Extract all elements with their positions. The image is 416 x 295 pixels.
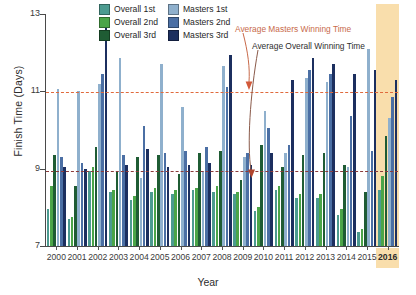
x-minor-tick — [160, 246, 161, 250]
bar-2012-overall-3rd — [302, 155, 305, 246]
bar-2006-masters-3rd — [188, 165, 191, 246]
bar-2004-overall-2nd — [133, 196, 136, 246]
legend-swatch-masters-3rd — [168, 30, 179, 41]
legend-item-masters-2nd[interactable]: Masters 2nd — [168, 16, 230, 28]
bar-2007-masters-3rd — [208, 163, 211, 246]
bar-2012-overall-2nd — [299, 194, 302, 246]
legend-swatch-masters-2nd — [168, 17, 179, 28]
year-group-2001 — [67, 14, 88, 246]
bar-2004-masters-3rd — [146, 149, 149, 246]
y-tick-label: 7 — [20, 240, 40, 250]
bar-2011-overall-1st — [275, 190, 278, 246]
x-minor-tick — [98, 246, 99, 250]
bar-2004-overall-1st — [130, 200, 133, 246]
year-group-2008 — [212, 14, 233, 246]
bar-2009-overall-1st — [233, 194, 236, 246]
bar-2013-overall-1st — [316, 198, 319, 246]
bar-2006-overall-2nd — [174, 190, 177, 246]
legend-label-overall-1st: Overall 1st — [114, 4, 155, 14]
bar-2004-masters-2nd — [143, 126, 146, 246]
bar-2008-masters-1st — [222, 66, 225, 246]
bar-2007-masters-1st — [202, 171, 205, 246]
bar-2006-masters-2nd — [184, 151, 187, 246]
year-group-2006 — [170, 14, 191, 246]
annotation-average-overall: Average Overall Winning Time — [252, 41, 365, 51]
y-tick-mark — [40, 91, 45, 92]
bar-2002-overall-3rd — [95, 147, 98, 246]
y-tick-label: 13 — [20, 8, 40, 18]
bar-2016-masters-3rd — [395, 80, 398, 246]
bar-2000-masters-3rd — [63, 167, 66, 246]
bar-2013-overall-3rd — [323, 153, 326, 246]
bar-2008-overall-2nd — [216, 186, 219, 246]
legend-item-overall-3rd[interactable]: Overall 3rd — [99, 29, 158, 41]
legend-label-masters-1st: Masters 1st — [183, 4, 227, 14]
legend-swatch-overall-2nd — [99, 17, 110, 28]
bar-2002-overall-1st — [88, 171, 91, 246]
bar-2012-masters-1st — [305, 78, 308, 246]
bar-2003-masters-1st — [119, 58, 122, 246]
x-minor-tick — [201, 246, 202, 250]
bar-2008-masters-2nd — [226, 87, 229, 246]
bar-2000-overall-2nd — [50, 186, 53, 246]
year-group-2005 — [150, 14, 171, 246]
bar-2003-overall-2nd — [112, 190, 115, 246]
bar-2011-masters-1st — [284, 153, 287, 246]
legend-item-masters-1st[interactable]: Masters 1st — [168, 3, 230, 15]
bar-2002-masters-3rd — [105, 20, 108, 246]
year-group-2009 — [232, 14, 253, 246]
bar-2009-masters-3rd — [250, 165, 253, 246]
legend-swatch-overall-1st — [99, 4, 110, 15]
bar-2005-overall-3rd — [157, 155, 160, 246]
legend-item-overall-2nd[interactable]: Overall 2nd — [99, 16, 158, 28]
bar-2012-overall-1st — [295, 198, 298, 246]
bar-2001-overall-2nd — [71, 217, 74, 246]
x-minor-tick — [305, 246, 306, 250]
bar-2014-overall-3rd — [343, 165, 346, 246]
bar-2002-overall-2nd — [92, 167, 95, 246]
legend-item-masters-3rd[interactable]: Masters 3rd — [168, 29, 230, 41]
x-axis-tick-labels: 2000200120022003200420052006200720082009… — [46, 252, 398, 268]
bar-2005-masters-3rd — [167, 167, 170, 246]
bar-2001-masters-2nd — [81, 163, 84, 246]
bar-2003-overall-1st — [109, 192, 112, 246]
bar-2008-overall-3rd — [219, 151, 222, 246]
bar-2001-masters-1st — [77, 91, 80, 246]
bar-2005-overall-2nd — [154, 188, 157, 246]
bar-2000-masters-1st — [57, 89, 60, 246]
bar-2007-overall-3rd — [198, 153, 201, 246]
bar-2015-overall-1st — [357, 232, 360, 246]
x-minor-tick — [139, 246, 140, 250]
x-minor-tick — [367, 246, 368, 250]
bar-2011-masters-3rd — [291, 80, 294, 246]
x-minor-tick — [243, 246, 244, 250]
bar-2013-overall-2nd — [319, 194, 322, 246]
bar-2014-masters-2nd — [350, 116, 353, 246]
bar-2013-masters-2nd — [329, 74, 332, 246]
chart-legend: Overall 1st Overall 2nd Overall 3rd Mast… — [99, 3, 230, 41]
bar-2000-overall-1st — [47, 209, 50, 246]
bar-2004-masters-1st — [140, 178, 143, 246]
bar-2003-masters-2nd — [122, 155, 125, 246]
x-minor-tick — [346, 246, 347, 250]
reference-line-average-overall-winning-time — [46, 171, 398, 172]
bar-2015-masters-3rd — [374, 70, 377, 246]
bar-2009-overall-3rd — [240, 180, 243, 246]
bar-2015-masters-2nd — [371, 151, 374, 246]
reference-line-average-masters-winning-time — [46, 92, 398, 93]
bar-2003-masters-3rd — [125, 165, 128, 246]
year-group-2004 — [129, 14, 150, 246]
bar-2014-masters-3rd — [353, 74, 356, 246]
legend-item-overall-1st[interactable]: Overall 1st — [99, 3, 158, 15]
x-minor-tick — [77, 246, 78, 250]
bar-2011-overall-2nd — [278, 186, 281, 246]
legend-column-overall: Overall 1st Overall 2nd Overall 3rd — [99, 3, 158, 41]
x-axis-title: Year — [0, 276, 416, 288]
bar-2015-masters-1st — [367, 49, 370, 246]
bar-2003-overall-3rd — [116, 171, 119, 246]
x-minor-tick — [222, 246, 223, 250]
bar-2001-masters-3rd — [84, 169, 87, 246]
bar-2014-overall-2nd — [340, 209, 343, 246]
bar-2009-masters-2nd — [246, 153, 249, 246]
x-minor-tick — [118, 246, 119, 250]
